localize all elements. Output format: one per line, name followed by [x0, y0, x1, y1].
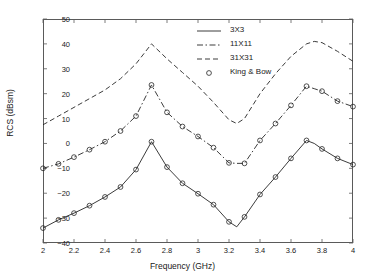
y-tick-0: 0 [66, 139, 70, 148]
legend-swatch-dash-dot [196, 37, 222, 49]
marker-king-bow-11x11 [211, 145, 216, 150]
y-tick--30: −30 [57, 214, 70, 223]
marker-king-bow-11x11 [118, 129, 123, 134]
curve-3x3 [43, 140, 353, 228]
y-tick-40: 40 [62, 39, 70, 48]
x-tick-2.8: 2.8 [162, 246, 172, 255]
x-tick-3.6: 3.6 [286, 246, 296, 255]
legend-item-king-bow: King & Bow [196, 64, 308, 78]
y-tick-30: 30 [62, 64, 70, 73]
chart-legend: 3X311X1131X31King & Bow [196, 22, 308, 78]
legend-label: 3X3 [230, 25, 244, 34]
marker-king-bow-11x11 [289, 103, 294, 108]
y-tick-20: 20 [62, 89, 70, 98]
legend-swatch-marker [196, 65, 222, 77]
marker-king-bow-11x11 [304, 84, 309, 89]
marker-king-bow-11x11 [134, 114, 139, 119]
y-tick--40: −40 [57, 239, 70, 248]
x-tick-2.6: 2.6 [131, 246, 141, 255]
x-tick-2.2: 2.2 [69, 246, 79, 255]
x-tick-3.8: 3.8 [317, 246, 327, 255]
data-markers [41, 83, 356, 231]
x-axis-label: Frequency (GHz) [0, 261, 365, 271]
rcs-frequency-chart: 22.22.42.62.833.23.43.63.84 50403020100−… [0, 0, 365, 280]
legend-label: 11X11 [230, 39, 252, 48]
legend-item-11x11: 11X11 [196, 36, 308, 50]
y-tick--10: −10 [57, 164, 70, 173]
marker-king-bow-11x11 [351, 104, 356, 109]
marker-king-bow-11x11 [320, 89, 325, 94]
x-tick-4: 4 [351, 246, 355, 255]
marker-king-bow-11x11 [165, 110, 170, 115]
marker-king-bow-11x11 [258, 138, 263, 143]
y-tick-10: 10 [62, 114, 70, 123]
legend-label: 31X31 [230, 53, 253, 62]
marker-king-bow-11x11 [273, 121, 278, 126]
legend-item-31x31: 31X31 [196, 50, 308, 64]
marker-king-bow-11x11 [72, 155, 77, 160]
legend-swatch-dashed [196, 51, 222, 63]
x-tick-2: 2 [41, 246, 45, 255]
y-tick-50: 50 [62, 15, 70, 24]
legend-label: King & Bow [230, 67, 271, 76]
chart-canvas [0, 0, 365, 280]
legend-swatch-solid [196, 23, 222, 35]
curve-11x11 [43, 85, 353, 168]
y-axis-label: RCS (dBsm) [5, 75, 15, 151]
legend-item-3x3: 3X3 [196, 22, 308, 36]
x-tick-3.4: 3.4 [255, 246, 265, 255]
x-tick-3.2: 3.2 [224, 246, 234, 255]
x-tick-2.4: 2.4 [100, 246, 110, 255]
y-tick--20: −20 [57, 189, 70, 198]
marker-king-bow-11x11 [180, 124, 185, 129]
x-tick-3: 3 [196, 246, 200, 255]
